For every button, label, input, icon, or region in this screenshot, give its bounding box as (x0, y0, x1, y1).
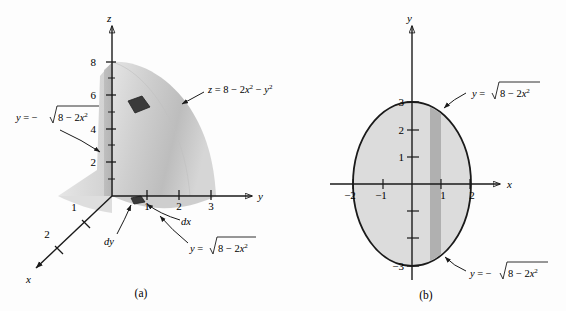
figure-canvas: z 8 6 4 2 y 1 2 3 x 1 2 z = 8 − 2x2 − y2… (0, 0, 566, 311)
svg-text:y =: y = (189, 243, 203, 254)
x-axis-label-panel-b: x (506, 178, 512, 190)
z-tick-label-8: 8 (91, 56, 97, 68)
y-tick-label-3-panel-a: 3 (208, 200, 214, 212)
y-tick-label-2-panel-a: 2 (176, 200, 182, 212)
z-axis-label: z (106, 12, 112, 24)
panel-a-caption: (a) (135, 287, 148, 300)
left-curve-label: y = − (15, 112, 38, 123)
y-tick-label-1-panel-b: 1 (399, 151, 405, 163)
svg-text:8 − 2x2: 8 − 2x2 (508, 267, 538, 279)
surface-equation-label: z = 8 − 2x2 − y2 (207, 83, 273, 95)
y-tick-label-2-panel-b: 2 (399, 124, 405, 136)
y-axis-label-panel-a: y (257, 190, 263, 202)
math-figure: z 8 6 4 2 y 1 2 3 x 1 2 z = 8 − 2x2 − y2… (0, 0, 566, 311)
strip-dx (430, 100, 441, 270)
z-tick-label-6: 6 (91, 89, 97, 101)
x-tick-label-1-panel-b: 1 (440, 189, 446, 201)
svg-text:8 − 2x2: 8 − 2x2 (218, 242, 248, 254)
x-tick-label-1-panel-a: 1 (71, 201, 77, 213)
x-axis-label-panel-a: x (25, 273, 31, 285)
svg-text:y = −: y = − (469, 268, 492, 279)
y-axis-label-panel-b: y (406, 12, 412, 24)
x-tick-label-2-panel-a: 2 (44, 228, 50, 240)
dx-label: dx (181, 216, 191, 227)
svg-text:8 − 2x2: 8 − 2x2 (58, 111, 88, 123)
y-tick-label-neg3-panel-b: −3 (392, 260, 404, 272)
x-tick-label-2-panel-b: 2 (469, 189, 475, 201)
x-tick-label-neg1-panel-b: −1 (375, 189, 387, 201)
svg-text:y =: y = (471, 88, 485, 99)
dy-label: dy (104, 236, 114, 247)
figure-background (0, 0, 566, 311)
z-tick-label-4: 4 (91, 123, 97, 135)
panel-b-caption: (b) (419, 289, 433, 302)
svg-text:8 − 2x2: 8 − 2x2 (500, 87, 530, 99)
x-tick-label-neg2-panel-b: −2 (344, 189, 356, 201)
y-tick-label-3-panel-b: 3 (399, 96, 405, 108)
z-tick-label-2: 2 (91, 156, 97, 168)
